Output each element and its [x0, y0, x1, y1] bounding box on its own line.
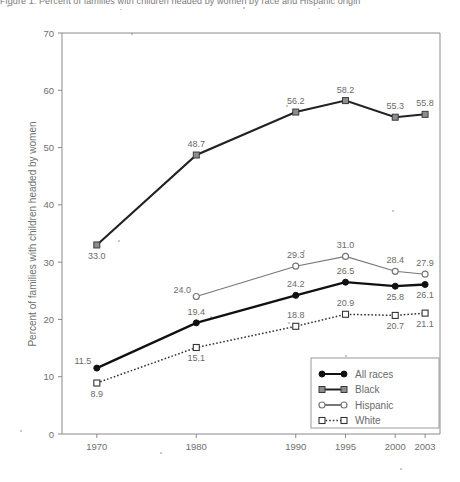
chart-legend[interactable]: All racesBlackHispanicWhite	[311, 358, 439, 428]
data-label: 27.9	[416, 258, 434, 268]
series-all-races	[94, 279, 428, 371]
data-label: 29.3	[287, 250, 305, 260]
data-label: 55.8	[416, 98, 434, 108]
y-axis-label: Percent of families with children headed…	[27, 121, 38, 346]
data-label: 8.9	[91, 389, 104, 399]
data-point	[193, 152, 199, 158]
data-label: 58.2	[337, 85, 355, 95]
data-point	[193, 344, 199, 350]
data-point	[343, 98, 349, 104]
y-tick-label: 40	[43, 199, 54, 210]
data-label: 26.5	[337, 266, 355, 276]
data-label: 56.2	[287, 96, 305, 106]
data-labels-layer: 11.519.424.226.525.826.133.048.756.258.2…	[74, 85, 433, 399]
figure-caption-clipped: Figure 1. Percent of families with child…	[0, 0, 460, 8]
data-label: 11.5	[74, 356, 91, 366]
data-label: 20.7	[386, 321, 404, 331]
data-point	[94, 365, 100, 371]
data-point	[193, 320, 199, 326]
x-tick-label: 1980	[186, 441, 207, 452]
data-point	[319, 387, 325, 393]
x-tick-label: 1970	[86, 441, 107, 452]
data-point	[94, 380, 100, 386]
data-label: 15.1	[188, 353, 206, 363]
line-chart-canvas: 010203040506070 197019801990199520002003…	[0, 0, 460, 482]
y-tick-label: 10	[43, 371, 54, 382]
y-tick-label: 70	[43, 28, 54, 39]
y-axis-ticks: 010203040506070	[43, 28, 62, 440]
legend-label: All races	[355, 369, 393, 380]
chart-figure: Figure 1. Percent of families with child…	[0, 0, 460, 482]
data-label: 55.3	[386, 101, 404, 111]
data-point	[392, 312, 398, 318]
x-tick-label: 2003	[415, 441, 436, 452]
data-point	[343, 311, 349, 317]
series-line	[97, 101, 425, 245]
data-point	[422, 111, 428, 117]
legend-label: White	[355, 415, 381, 426]
series-black	[94, 98, 428, 248]
y-tick-label: 0	[49, 429, 54, 440]
data-point	[319, 402, 325, 408]
data-point	[293, 109, 299, 115]
data-point	[319, 418, 325, 424]
data-label: 26.1	[416, 290, 434, 300]
data-point	[341, 418, 347, 424]
legend-label: Black	[355, 384, 380, 395]
data-point	[422, 281, 428, 287]
data-label: 20.9	[337, 298, 355, 308]
data-label: 31.0	[337, 240, 355, 250]
series-layer	[94, 98, 428, 386]
data-point	[392, 114, 398, 120]
data-point	[341, 402, 347, 408]
data-point	[293, 263, 299, 269]
data-point	[343, 279, 349, 285]
data-label: 28.4	[386, 255, 404, 265]
data-point	[343, 253, 349, 259]
data-point	[392, 268, 398, 274]
x-tick-label: 1990	[285, 441, 306, 452]
data-point	[422, 271, 428, 277]
data-point	[341, 387, 347, 393]
y-tick-label: 60	[43, 85, 54, 96]
series-line	[97, 282, 425, 368]
data-label: 24.2	[287, 279, 305, 289]
data-point	[94, 242, 100, 248]
data-label: 24.0	[174, 285, 192, 295]
data-label: 33.0	[88, 251, 106, 261]
data-point	[392, 283, 398, 289]
x-tick-label: 1995	[335, 441, 356, 452]
data-label: 25.8	[386, 292, 404, 302]
data-point	[193, 294, 199, 300]
data-label: 21.1	[416, 319, 434, 329]
data-point	[319, 371, 325, 377]
data-label: 48.7	[188, 139, 206, 149]
data-label: 19.4	[188, 307, 206, 317]
legend-label: Hispanic	[355, 400, 393, 411]
y-tick-label: 50	[43, 142, 54, 153]
data-point	[293, 292, 299, 298]
x-tick-label: 2000	[385, 441, 406, 452]
y-tick-label: 20	[43, 314, 54, 325]
data-point	[422, 310, 428, 316]
data-point	[293, 323, 299, 329]
data-point	[341, 371, 347, 377]
x-axis-ticks: 197019801990199520002003	[86, 434, 435, 452]
y-tick-label: 30	[43, 257, 54, 268]
data-label: 18.8	[287, 310, 305, 320]
